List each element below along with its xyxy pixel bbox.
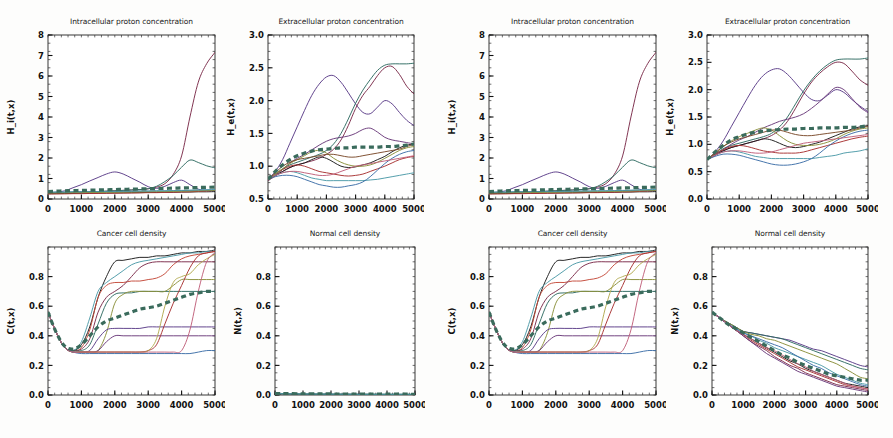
y-tick-label: 4	[479, 112, 485, 122]
x-tick-label: 5000	[403, 400, 425, 410]
y-tick-label: 0.2	[29, 361, 44, 371]
y-tick-label: 5	[38, 92, 44, 102]
y-tick-label: 3.0	[688, 30, 703, 40]
y-tick-label: 6	[479, 71, 485, 81]
y-tick-label: 0.8	[470, 272, 485, 282]
plot-panel-left-bottom-left: Cancer cell densityC(t,x)010002000300040…	[2, 229, 225, 417]
y-tick-label: 1.5	[249, 129, 264, 139]
x-tick-label: 3000	[344, 204, 368, 214]
y-tick-label: 1	[38, 174, 44, 184]
plot-area: 0100020003000400050000.51.01.52.02.53.0	[222, 17, 424, 221]
plot-area: 010002000300040005000012345678	[2, 17, 225, 221]
x-tick-label: 2000	[544, 400, 568, 410]
plot-panel-right-bottom-left: Cancer cell densityC(t,x)010002000300040…	[443, 229, 666, 417]
y-tick-label: 0.0	[256, 390, 271, 400]
y-tick-label: 7	[479, 51, 485, 61]
y-tick-label: 0.6	[256, 301, 271, 311]
y-tick-label: 3	[38, 133, 44, 143]
y-tick-label: 0	[479, 194, 485, 204]
y-tick-label: 2.5	[688, 57, 703, 67]
figure-canvas: Intracellular proton concentrationH_i(t,…	[0, 0, 893, 438]
plot-area: 0100020003000400050000.00.51.01.52.02.53…	[661, 17, 878, 221]
y-tick-label: 0.4	[29, 331, 44, 341]
x-tick-label: 2000	[319, 400, 343, 410]
x-tick-label: 3000	[136, 400, 160, 410]
x-tick-label: 0	[272, 400, 278, 410]
y-tick-label: 0.5	[688, 167, 703, 177]
x-tick-label: 3000	[577, 400, 601, 410]
x-tick-label: 3000	[792, 204, 816, 214]
x-tick-label: 4000	[373, 204, 397, 214]
x-tick-label: 2000	[103, 204, 127, 214]
x-tick-label: 5000	[856, 204, 878, 214]
y-tick-label: 2	[38, 153, 44, 163]
y-tick-label: 0	[38, 194, 44, 204]
x-tick-label: 4000	[375, 400, 399, 410]
y-tick-label: 5	[479, 92, 485, 102]
x-tick-label: 3000	[577, 204, 601, 214]
y-tick-label: 0.0	[688, 194, 703, 204]
y-tick-label: 2.5	[249, 63, 264, 73]
plot-area: 0100020003000400050000.00.20.40.60.8	[443, 229, 666, 417]
x-tick-label: 5000	[856, 400, 878, 410]
x-tick-label: 4000	[824, 204, 848, 214]
x-tick-label: 1000	[511, 204, 535, 214]
y-tick-label: 1.0	[249, 161, 264, 171]
y-tick-label: 7	[38, 51, 44, 61]
x-tick-label: 3000	[136, 204, 160, 214]
x-tick-label: 0	[45, 204, 51, 214]
series-line	[275, 394, 415, 395]
x-tick-label: 1000	[727, 204, 751, 214]
y-tick-label: 0.0	[470, 390, 485, 400]
plot-area: 0100020003000400050000.00.20.40.60.8	[229, 229, 425, 417]
plot-area: 0100020003000400050000.00.20.40.60.8	[2, 229, 225, 417]
y-tick-label: 0.4	[256, 331, 271, 341]
y-tick-label: 0.0	[29, 390, 44, 400]
x-tick-label: 5000	[203, 400, 225, 410]
x-tick-label: 0	[704, 204, 710, 214]
y-tick-label: 8	[479, 30, 485, 40]
plot-panel-right-top-right: Extracellular proton concentrationH_e(t,…	[661, 17, 878, 221]
plot-panel-left-bottom-right: Normal cell densityN(t,x)010002000300040…	[229, 229, 425, 417]
plot-panel-right-top-left: Intracellular proton concentrationH_i(t,…	[443, 17, 666, 221]
x-tick-label: 1000	[511, 400, 535, 410]
plot-area: 0100020003000400050000.00.20.40.60.8	[666, 229, 878, 417]
x-tick-label: 0	[709, 400, 715, 410]
plot-panel-right-bottom-right: Normal cell densityN(t,x)010002000300040…	[666, 229, 878, 417]
y-tick-label: 4	[38, 112, 44, 122]
y-tick-label: 0.2	[256, 361, 271, 371]
y-tick-label: 0.2	[693, 361, 708, 371]
x-tick-label: 0	[486, 204, 492, 214]
x-tick-label: 1000	[285, 204, 309, 214]
x-tick-label: 1000	[291, 400, 315, 410]
plot-panel-left-top-left: Intracellular proton concentrationH_i(t,…	[2, 17, 225, 221]
y-tick-label: 3	[479, 133, 485, 143]
y-tick-label: 0.8	[693, 272, 708, 282]
x-tick-label: 4000	[825, 400, 849, 410]
x-tick-label: 4000	[170, 204, 194, 214]
x-tick-label: 0	[486, 400, 492, 410]
x-tick-label: 2000	[544, 204, 568, 214]
x-tick-label: 4000	[611, 204, 635, 214]
y-tick-label: 6	[38, 71, 44, 81]
x-tick-label: 2000	[763, 400, 787, 410]
y-tick-label: 0.2	[470, 361, 485, 371]
y-tick-label: 0.8	[29, 272, 44, 282]
x-tick-label: 5000	[644, 400, 666, 410]
y-tick-label: 1.5	[688, 112, 703, 122]
y-tick-label: 3.0	[249, 30, 264, 40]
y-tick-label: 0.6	[693, 301, 708, 311]
y-tick-label: 0.0	[693, 390, 708, 400]
x-tick-label: 3000	[794, 400, 818, 410]
y-tick-label: 0.8	[256, 272, 271, 282]
x-tick-label: 1000	[70, 400, 94, 410]
y-tick-label: 2.0	[249, 96, 264, 106]
y-tick-label: 2	[479, 153, 485, 163]
y-tick-label: 0.5	[249, 194, 264, 204]
y-tick-label: 8	[38, 30, 44, 40]
x-tick-label: 1000	[70, 204, 94, 214]
plot-area: 010002000300040005000012345678	[443, 17, 666, 221]
plot-panel-left-top-right: Extracellular proton concentrationH_e(t,…	[222, 17, 424, 221]
x-tick-label: 5000	[402, 204, 424, 214]
x-tick-label: 3000	[347, 400, 371, 410]
